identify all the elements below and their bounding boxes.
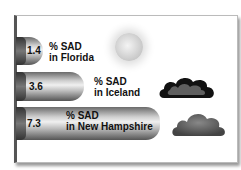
label-line2: in Iceland [94,87,140,98]
bar-iceland [16,72,84,101]
label-line1: % SAD [94,76,140,87]
label-florida: % SAD in Florida [49,41,94,63]
sun-icon [115,33,143,61]
label-line1: % SAD [49,41,94,52]
label-line2: in Florida [49,52,94,63]
value-iceland: 3.6 [29,81,43,92]
label-iceland: % SAD in Iceland [94,76,140,98]
gray-cloud-icon [171,110,227,140]
bar-cap [16,37,26,65]
label-line2: in New Hampshire [66,121,153,132]
bar-cap [16,72,26,101]
label-line1: % SAD [66,110,153,121]
value-new-hampshire: 7.3 [27,118,41,129]
value-florida: 1.4 [27,45,41,56]
dark-cloud-icon [158,76,218,102]
label-new-hampshire: % SAD in New Hampshire [66,110,153,132]
bar-cap [16,107,26,140]
